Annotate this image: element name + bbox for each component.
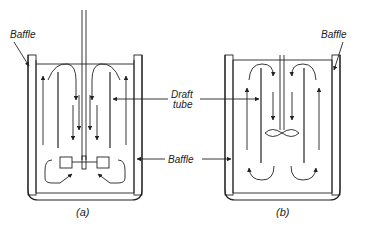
vessel-outer-b — [225, 55, 340, 200]
vessel-inner-a — [36, 60, 134, 193]
vessel-inner-b — [233, 60, 332, 193]
impeller-blade-left-a — [60, 157, 72, 168]
draft-tube-diagram: Baffle Baffle Draft tube Baffle (a) (b) — [0, 0, 366, 226]
labels: Baffle Baffle Draft tube Baffle (a) (b) — [10, 29, 347, 218]
label-baffle-middle: Baffle — [168, 154, 194, 165]
label-baffle-top-left: Baffle — [10, 29, 36, 40]
baffle-right-b — [332, 55, 340, 195]
impeller-hub-a — [82, 156, 86, 169]
label-tube-line2: tube — [173, 99, 193, 110]
caption-a: (a) — [76, 206, 90, 218]
caption-b: (b) — [276, 206, 290, 218]
propeller-b — [265, 130, 299, 137]
label-baffle-top-right: Baffle — [321, 29, 347, 40]
leader-baffle-top-left — [14, 42, 29, 66]
baffle-right-a — [134, 55, 142, 195]
leader-baffle-top-right — [334, 42, 343, 70]
panel-a — [28, 10, 142, 200]
impeller-blade-right-a — [97, 157, 109, 168]
baffle-left-a — [28, 55, 36, 195]
panel-b — [225, 55, 340, 200]
baffle-left-b — [225, 55, 233, 195]
